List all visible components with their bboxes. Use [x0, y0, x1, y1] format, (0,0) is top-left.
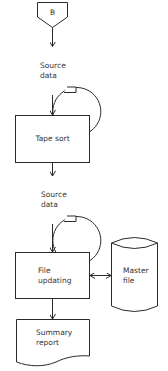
file-updating-line2: updating: [38, 276, 88, 286]
flowchart-canvas: [0, 0, 168, 371]
source-data-1-line1: Source: [40, 61, 80, 71]
master-file-line2: file: [123, 276, 158, 286]
summary-report-line1: Summary: [36, 328, 86, 338]
connector-label: B: [37, 8, 68, 18]
file-updating-label: File updating: [38, 266, 88, 286]
summary-report-line2: report: [36, 338, 86, 348]
master-file-label: Master file: [123, 266, 158, 286]
source-data-2-line1: Source: [41, 190, 81, 200]
summary-report-label: Summary report: [36, 328, 86, 348]
tape-sort-label: Tape sort: [15, 134, 90, 144]
master-file-line1: Master: [123, 266, 158, 276]
file-updating-line1: File: [38, 266, 88, 276]
source-data-2-line2: data: [41, 200, 81, 210]
source-data-2-label: Source data: [41, 190, 81, 210]
source-data-1-label: Source data: [40, 61, 80, 81]
source-data-1-line2: data: [40, 71, 80, 81]
